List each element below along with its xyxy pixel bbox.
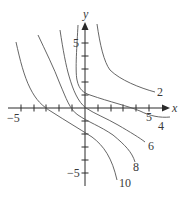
x-tick-label-5: 5 [146, 111, 152, 123]
level-curve-8 [38, 35, 135, 162]
curve-label-4: 4 [158, 120, 164, 132]
contour-plot [0, 0, 185, 199]
y-tick-label-neg5: −5 [67, 167, 80, 179]
axes [8, 28, 164, 186]
x-axis-arrow-icon [162, 105, 170, 112]
level-curve-2 [97, 24, 155, 92]
y-tick-label-5: 5 [73, 37, 79, 49]
level-curve-4 [76, 25, 170, 117]
y-axis-label: y [83, 8, 88, 20]
curve-label-10: 10 [119, 177, 131, 189]
curve-label-8: 8 [133, 161, 139, 173]
x-tick-label-neg5: −5 [7, 112, 20, 124]
curve-label-6: 6 [148, 140, 154, 152]
curve-label-2: 2 [157, 86, 163, 98]
level-curve-10 [16, 42, 117, 180]
x-axis-label: x [172, 102, 177, 114]
y-axis-arrow-icon [82, 22, 89, 30]
